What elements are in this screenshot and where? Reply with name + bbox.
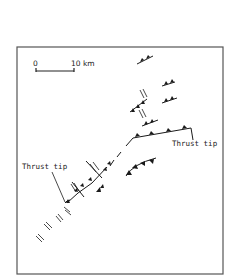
ss-arrow-4 — [71, 183, 79, 192]
thrust-tip-leader-left — [52, 172, 65, 202]
ss-arrow-7 — [44, 222, 52, 230]
thrust-segment-ne-3 — [162, 96, 177, 103]
fault-map — [0, 0, 236, 276]
thrust-segment-n-4 — [130, 99, 147, 112]
ss-arrow-2 — [139, 109, 146, 118]
thrust-tip-label-left: Thrust tip — [22, 162, 67, 171]
thrust-segment-ne-1 — [137, 55, 153, 64]
scale-bar — [36, 68, 74, 72]
thrust-segment-ne-2 — [162, 79, 175, 86]
thrust-teeth-main — [74, 125, 187, 192]
thrust-segment-n-5 — [142, 119, 158, 126]
scale-start-label: 0 — [33, 59, 38, 68]
thrust-tip-label-right: Thrust tip — [172, 139, 217, 148]
map-frame — [17, 47, 223, 274]
ss-arrow-1 — [140, 89, 147, 98]
ss-arrow-8 — [36, 234, 44, 242]
ss-arrow-6 — [56, 214, 63, 222]
ss-arrow-5 — [64, 207, 71, 215]
curved-thrust — [126, 158, 156, 176]
scale-end-label: 10 km — [71, 59, 95, 68]
thrust-isolated-center — [96, 184, 104, 192]
